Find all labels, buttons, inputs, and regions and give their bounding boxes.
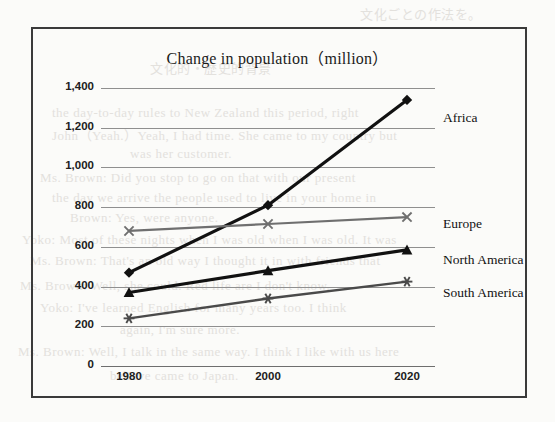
chart-title: Change in population（million）	[0, 45, 555, 69]
x-axis-labels: 198020002020	[101, 370, 435, 390]
asterisk-marker	[263, 294, 274, 303]
x-axis-tick-label: 2020	[394, 370, 420, 382]
chart-page: 文化ごとの作法を。文化的・歴史的背景the day-to-day rules t…	[0, 0, 555, 422]
series-line-africa	[129, 100, 407, 273]
series-label-europe: Europe	[443, 216, 482, 232]
x-axis-tick-label: 2000	[255, 370, 281, 382]
bleed-text-line: 文化ごとの作法を。	[360, 4, 482, 23]
y-axis-tick-label: 0	[38, 358, 94, 370]
y-axis-tick-label: 400	[38, 279, 94, 291]
y-axis-tick-label: 1,000	[38, 159, 94, 171]
asterisk-marker	[402, 277, 413, 286]
y-axis-tick-label: 200	[38, 318, 94, 330]
y-axis-labels: 02004006008001,0001,2001,400	[36, 88, 94, 366]
gridline	[101, 366, 435, 367]
y-axis-tick-label: 1,400	[38, 80, 94, 92]
y-axis-tick-label: 800	[38, 199, 94, 211]
diamond-marker	[124, 267, 134, 277]
y-axis-tick-label: 600	[38, 239, 94, 251]
asterisk-marker	[124, 314, 135, 323]
series-label-south-america: South America	[443, 285, 524, 301]
series-label-north-america: North America	[443, 252, 524, 268]
series-label-africa: Africa	[443, 110, 477, 126]
y-axis-tick-label: 1,200	[38, 120, 94, 132]
series-lines	[101, 88, 435, 366]
x-axis-tick-label: 1980	[116, 370, 142, 382]
